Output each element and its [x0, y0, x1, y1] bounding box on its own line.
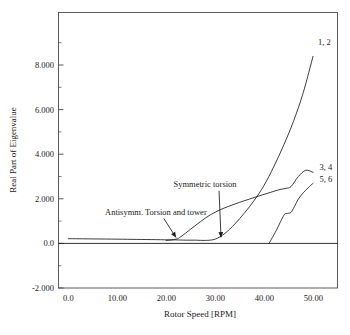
annotation-arrowhead-0 [171, 232, 176, 238]
curve-series-5-6 [269, 183, 313, 243]
x-tick-label-3: 30.00 [206, 293, 225, 303]
x-tick-label-4: 40.00 [255, 293, 274, 303]
y-tick-label-4: 6.000 [35, 105, 54, 115]
mode-label-5-6: 5, 6 [319, 174, 332, 184]
y-tick-label-3: 4.000 [35, 149, 54, 159]
y-axis-title: Real Part of Eigenvalue [8, 107, 18, 193]
y-tick-label-1: 0.0 [43, 238, 54, 248]
y-tick-label-2: 2.000 [35, 194, 54, 204]
chart-canvas: -2.000 0.0 2.000 4.000 6.000 8.000 0.0 1… [0, 0, 350, 335]
x-tick-label-2: 20.00 [157, 293, 176, 303]
annotation-leader-1 [219, 191, 221, 238]
mode-label-3-4: 3, 4 [319, 162, 333, 172]
x-axis-title: Rotor Speed [RPM] [164, 309, 236, 319]
annotation-antisymm-torsion-and-tower: Antisymm. Torsion and tower [105, 207, 207, 217]
mode-label-1-2: 1, 2 [318, 37, 331, 47]
annotation-symmetric-torsion: Symmetric torsion [174, 179, 238, 189]
x-tick-label-5: 50.00 [304, 293, 323, 303]
plot-frame [59, 13, 338, 289]
y-tick-label-5: 8.000 [35, 60, 54, 70]
x-tick-label-1: 10.00 [108, 293, 127, 303]
y-tick-label-0: -2.000 [32, 283, 54, 293]
eigenvalue-chart-figure: -2.000 0.0 2.000 4.000 6.000 8.000 0.0 1… [0, 0, 350, 335]
x-tick-label-0: 0.0 [63, 293, 74, 303]
